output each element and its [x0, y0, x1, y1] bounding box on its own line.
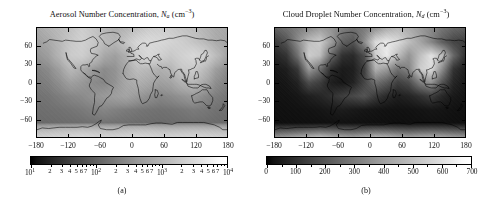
x-tick	[196, 28, 197, 32]
x-tick	[227, 28, 228, 32]
colorbar-major-label: 200	[319, 167, 330, 176]
colorbar-major-label: 104	[223, 167, 233, 177]
colorbar-minor-label: 3	[192, 167, 195, 174]
y-axis-label: 60	[246, 41, 270, 50]
x-tick	[465, 28, 466, 32]
panel-a-colorbar: 101102103104234567234567234567	[30, 156, 228, 165]
x-tick	[36, 134, 37, 138]
colorbar-minor-label: 4	[200, 167, 203, 174]
colorbar-minor-label: 2	[48, 167, 51, 174]
y-tick	[462, 83, 466, 84]
x-tick	[100, 28, 101, 32]
colorbar-minor-label: 4	[68, 167, 71, 174]
panel-b-title-units-close: )	[446, 10, 449, 19]
panel-a: Aerosol Number Concentration, Na (cm−3) …	[0, 0, 244, 211]
panel-b-caption: (b)	[244, 186, 488, 195]
colorbar-tick	[90, 164, 91, 166]
panel-b-colorbar: 0100200300400500600700	[266, 156, 472, 165]
colorbar-major-label: 100	[290, 167, 301, 176]
x-tick	[434, 28, 435, 32]
panel-b-map: −180−120−6006012018060300−30−60	[274, 27, 466, 138]
y-tick	[224, 101, 228, 102]
colorbar-minor-label: 2	[114, 167, 117, 174]
y-tick	[275, 83, 279, 84]
x-tick	[370, 134, 371, 138]
y-axis-label: 60	[8, 41, 32, 50]
x-tick	[36, 28, 37, 32]
colorbar-tick	[311, 164, 312, 167]
colorbar-tick	[456, 164, 457, 167]
y-tick	[37, 120, 41, 121]
y-tick	[37, 83, 41, 84]
colorbar-tick	[221, 164, 222, 166]
y-axis-label: −30	[246, 96, 270, 105]
x-tick	[164, 134, 165, 138]
colorbar-major-label: 103	[157, 167, 167, 177]
x-tick	[227, 134, 228, 138]
x-tick	[306, 28, 307, 32]
colorbar-major-label: 700	[466, 167, 477, 176]
x-tick	[196, 134, 197, 138]
colorbar-minor-label: 3	[126, 167, 129, 174]
y-axis-label: −60	[246, 115, 270, 124]
y-tick	[462, 64, 466, 65]
panel-b: Cloud Droplet Number Concentration, Nd (…	[244, 0, 488, 211]
figure-root: Aerosol Number Concentration, Na (cm−3) …	[0, 0, 488, 211]
x-tick	[338, 134, 339, 138]
y-axis-label: −60	[8, 115, 32, 124]
x-tick	[434, 134, 435, 138]
panel-b-title-units-open: (cm	[425, 10, 440, 19]
panel-b-colorbar-gradient	[266, 156, 472, 165]
y-tick	[37, 101, 41, 102]
y-tick	[462, 120, 466, 121]
colorbar-major-label: 500	[408, 167, 419, 176]
y-axis-label: 0	[246, 78, 270, 87]
panel-b-title: Cloud Droplet Number Concentration, Nd (…	[244, 6, 488, 22]
colorbar-minor-label: 6	[146, 167, 149, 174]
panel-a-caption: (a)	[0, 186, 244, 195]
x-tick	[402, 134, 403, 138]
y-axis-label: 30	[246, 59, 270, 68]
y-tick	[224, 46, 228, 47]
y-axis-label: −30	[8, 96, 32, 105]
colorbar-minor-label: 5	[206, 167, 209, 174]
x-axis-label: 180	[446, 141, 486, 150]
x-tick	[100, 134, 101, 138]
panel-a-heatmap	[37, 28, 227, 137]
colorbar-minor-label: 7	[216, 167, 219, 174]
colorbar-major-label: 400	[378, 167, 389, 176]
panel-a-map: −180−120−6006012018060300−30−60	[36, 27, 228, 138]
x-tick	[164, 28, 165, 32]
x-tick	[274, 28, 275, 32]
panel-a-title: Aerosol Number Concentration, Na (cm−3)	[0, 6, 244, 22]
x-tick	[465, 134, 466, 138]
colorbar-minor-label: 6	[80, 167, 83, 174]
y-tick	[275, 101, 279, 102]
x-tick	[402, 28, 403, 32]
y-tick	[462, 46, 466, 47]
x-tick	[338, 28, 339, 32]
colorbar-tick	[155, 164, 156, 166]
panel-a-title-units-close: )	[191, 10, 194, 19]
panel-a-title-units-open: (cm	[170, 10, 185, 19]
colorbar-minor-label: 4	[134, 167, 137, 174]
colorbar-minor-label: 7	[150, 167, 153, 174]
y-tick	[275, 64, 279, 65]
colorbar-major-label: 0	[264, 167, 268, 176]
y-tick	[224, 64, 228, 65]
y-tick	[224, 120, 228, 121]
x-tick	[306, 134, 307, 138]
panel-a-title-prefix: Aerosol Number Concentration,	[50, 10, 161, 19]
colorbar-minor-label: 5	[74, 167, 77, 174]
colorbar-tick	[398, 164, 399, 167]
colorbar-tick	[282, 164, 283, 167]
panel-a-map-frame	[36, 27, 228, 138]
colorbar-tick	[369, 164, 370, 167]
colorbar-minor-label: 2	[180, 167, 183, 174]
y-tick	[224, 83, 228, 84]
y-tick	[37, 46, 41, 47]
colorbar-major-label: 102	[91, 167, 101, 177]
panel-a-colorbar-gradient	[30, 156, 228, 165]
y-tick	[275, 120, 279, 121]
colorbar-tick	[93, 164, 94, 166]
